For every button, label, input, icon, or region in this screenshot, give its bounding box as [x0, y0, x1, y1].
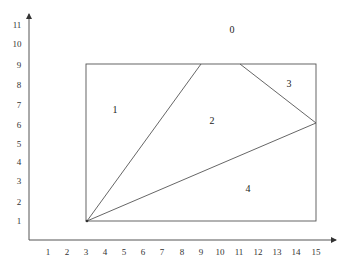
x-tick: 7 — [160, 247, 165, 257]
x-tick: 5 — [122, 247, 127, 257]
y-tick: 4 — [17, 157, 22, 167]
x-tick: 2 — [65, 247, 70, 257]
x-tick: 13 — [273, 247, 283, 257]
y-tick: 3 — [17, 176, 22, 186]
y-axis-ticks: 1 2 3 4 5 6 7 8 9 10 11 — [13, 20, 23, 226]
x-tick: 10 — [216, 247, 226, 257]
x-axis-ticks: 1 2 3 4 5 6 7 8 9 10 11 12 13 14 15 — [46, 247, 321, 257]
x-tick: 3 — [84, 247, 89, 257]
region-label-1: 1 — [113, 104, 118, 115]
y-tick: 1 — [17, 216, 22, 226]
region-label-2: 2 — [210, 115, 215, 126]
y-tick: 10 — [13, 39, 23, 49]
x-tick: 11 — [235, 247, 244, 257]
y-tick: 9 — [17, 60, 22, 70]
y-tick: 11 — [13, 20, 22, 30]
x-tick: 15 — [312, 247, 322, 257]
x-tick: 1 — [46, 247, 51, 257]
x-tick: 9 — [199, 247, 204, 257]
y-tick: 6 — [17, 120, 22, 130]
y-tick: 2 — [17, 197, 22, 207]
x-tick: 8 — [180, 247, 185, 257]
diagram-canvas: 1 2 3 4 5 6 7 8 9 10 11 12 13 14 15 1 2 … — [0, 0, 353, 265]
segment-11-9-to-15-6 — [240, 64, 316, 123]
x-tick: 12 — [254, 247, 263, 257]
region-label-4: 4 — [246, 183, 251, 194]
segment-3-1-to-15-6 — [87, 123, 316, 221]
vertex-point — [86, 220, 89, 223]
bounding-rectangle — [86, 64, 316, 221]
y-tick: 5 — [17, 139, 22, 149]
x-tick: 6 — [141, 247, 146, 257]
region-label-3: 3 — [287, 78, 292, 89]
segment-3-1-to-9-9 — [87, 64, 201, 221]
x-tick: 14 — [292, 247, 302, 257]
x-tick: 4 — [103, 247, 108, 257]
y-tick: 7 — [17, 100, 22, 110]
y-tick: 8 — [17, 80, 22, 90]
region-label-0: 0 — [230, 24, 235, 35]
